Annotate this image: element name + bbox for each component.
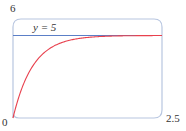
- plot-frame: [13, 19, 162, 118]
- asymptote-label: y = 5: [33, 22, 56, 33]
- x-max-tick-label: 2.5: [166, 113, 180, 124]
- chart-canvas: [0, 0, 186, 131]
- y-max-tick-label: 6: [10, 3, 16, 14]
- data-curve: [13, 36, 162, 118]
- origin-tick-label: 0: [2, 117, 8, 128]
